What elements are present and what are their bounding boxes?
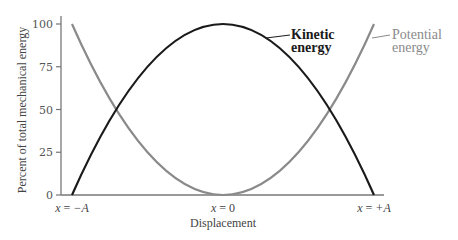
x-axis-title: Displacement	[190, 216, 257, 230]
kinetic-leader-line	[266, 35, 290, 38]
y-tick-100: 100	[32, 18, 53, 31]
y-tick-labels: 0 25 50 75 100	[32, 18, 53, 202]
potential-leader-line	[372, 35, 390, 38]
x-tick-zero: x = 0	[210, 201, 235, 215]
y-tick-0: 0	[46, 189, 53, 202]
energy-chart: 0 25 50 75 100 Percent of total mechanic…	[0, 0, 458, 240]
y-tick-25: 25	[39, 146, 53, 159]
y-tick-50: 50	[39, 104, 53, 117]
potential-label-line2: energy	[392, 40, 430, 55]
y-axis-title: Percent of total mechanical energy	[15, 27, 29, 193]
y-tick-75: 75	[39, 61, 53, 74]
y-ticks	[56, 24, 61, 195]
kinetic-label-line2: energy	[291, 40, 331, 55]
x-tick-plus-a: x = +A	[356, 201, 391, 215]
x-tick-minus-a: x = −A	[54, 201, 89, 215]
